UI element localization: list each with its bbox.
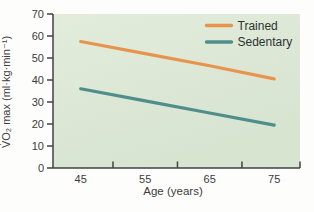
y-tick-label: 50 <box>32 52 44 64</box>
legend-label-sedentary: Sedentary <box>238 35 293 49</box>
y-tick-label: 10 <box>32 140 44 152</box>
chart-canvas: 01020304050607045556575Age (years)V̇O₂ m… <box>0 0 314 212</box>
y-tick-label: 60 <box>32 30 44 42</box>
y-tick-label: 30 <box>32 96 44 108</box>
y-tick-label: 40 <box>32 74 44 86</box>
y-tick-label: 0 <box>38 162 44 174</box>
x-axis-label: Age (years) <box>143 185 203 197</box>
x-tick-label: 45 <box>75 173 87 185</box>
vo2max-aging-line-chart: 01020304050607045556575Age (years)V̇O₂ m… <box>0 0 314 212</box>
y-tick-label: 70 <box>32 8 44 20</box>
y-axis-label: V̇O₂ max (ml·kg·min⁻¹) <box>0 36 12 148</box>
x-tick-label: 65 <box>204 173 216 185</box>
x-tick-label: 55 <box>139 173 151 185</box>
y-tick-label: 20 <box>32 118 44 130</box>
x-tick-label: 75 <box>268 173 280 185</box>
legend-label-trained: Trained <box>238 19 278 33</box>
